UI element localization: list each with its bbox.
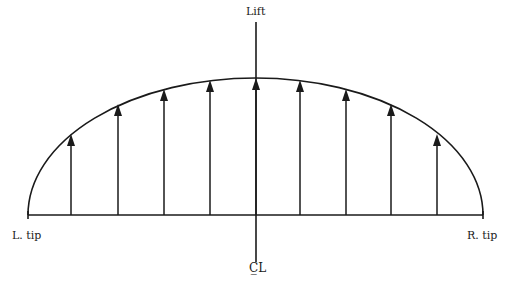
lift-arrowhead-icon xyxy=(252,78,260,90)
lift-arrowhead-icon xyxy=(67,134,75,146)
right-tip-label: R. tip xyxy=(467,229,497,242)
lift-arrowhead-icon xyxy=(433,134,441,146)
centerline-symbol: C̲L xyxy=(249,261,266,275)
lift-distribution-diagram xyxy=(0,0,508,289)
left-tip-label: L. tip xyxy=(12,229,41,242)
lift-arrowhead-icon xyxy=(296,80,304,92)
lift-arrowhead-icon xyxy=(114,104,122,116)
centerline-label: C̲L xyxy=(249,263,266,273)
lift-label: Lift xyxy=(246,5,265,18)
